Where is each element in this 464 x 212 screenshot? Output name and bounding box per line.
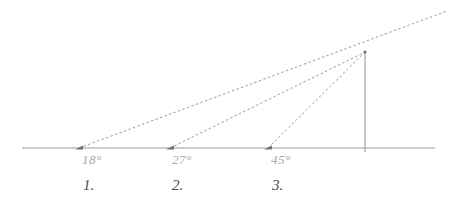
vertex-markers bbox=[75, 50, 367, 149]
index-label-1: 1. bbox=[83, 177, 94, 194]
geometry-diagram: 18° 27° 45° 1. 2. 3. bbox=[0, 0, 464, 212]
ray-18-degrees bbox=[79, 11, 447, 148]
angle-label-45: 45° bbox=[271, 152, 291, 168]
angle-label-18: 18° bbox=[82, 152, 102, 168]
ray-45-degrees bbox=[268, 52, 365, 148]
diagram-canvas bbox=[0, 0, 464, 212]
apex-marker bbox=[363, 50, 366, 53]
index-label-2: 2. bbox=[172, 177, 183, 194]
index-label-3: 3. bbox=[272, 177, 283, 194]
ray-27-degrees bbox=[170, 52, 365, 148]
angle-label-27: 27° bbox=[172, 152, 192, 168]
